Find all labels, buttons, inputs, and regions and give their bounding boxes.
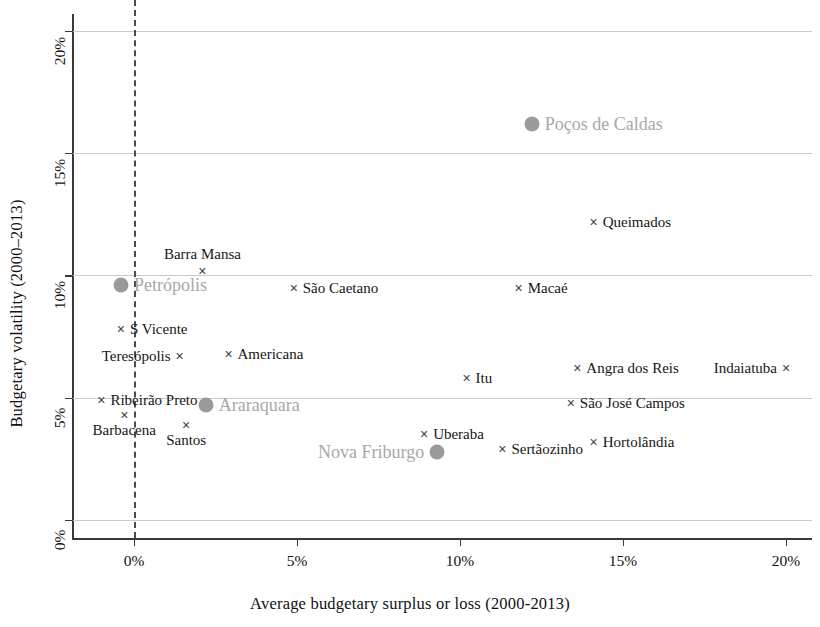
cross-marker-icon: × [498, 442, 506, 456]
y-tick-label: 15% [51, 153, 69, 193]
data-point-petropolis[interactable] [113, 278, 128, 293]
data-point-pocos-de-caldas[interactable] [524, 116, 539, 131]
cross-marker-icon: × [224, 347, 232, 361]
data-point-queimados[interactable]: × [590, 215, 598, 229]
data-point-sertaozinho[interactable]: × [498, 442, 506, 456]
gridline-y [72, 520, 812, 521]
data-point-itu[interactable]: × [462, 371, 470, 385]
data-point-label-araraquara: Araraquara [219, 396, 300, 414]
data-point-uberaba[interactable]: × [420, 427, 428, 441]
y-axis-title: Budgetary volatility (2000–2013) [0, 0, 34, 627]
x-tick-label: 15% [609, 552, 637, 570]
cross-marker-icon: × [515, 281, 523, 295]
data-point-label-teresopolis: Teresópolis [102, 349, 171, 364]
data-point-ribeirao-preto[interactable]: × [97, 393, 105, 407]
data-point-label-macae: Macaé [528, 280, 568, 295]
x-tick-mark [623, 538, 624, 546]
data-point-label-petropolis: Petrópolis [134, 276, 207, 294]
data-point-teresopolis[interactable]: × [176, 349, 184, 363]
cross-marker-icon: × [182, 418, 190, 432]
plot-area: 0%5%10%15%20% 0%5%10%15%20% Poços de Cal… [72, 14, 812, 540]
cross-marker-icon: × [290, 281, 298, 295]
data-point-santos[interactable]: × [182, 418, 190, 432]
data-point-label-sao-jose-campos: São José Campos [580, 395, 685, 410]
x-tick-mark [786, 538, 787, 546]
data-point-indaiatuba[interactable]: × [782, 361, 790, 375]
data-point-label-indaiatuba: Indaiatuba [714, 361, 777, 376]
cross-marker-icon: × [590, 215, 598, 229]
x-tick-label: 5% [287, 552, 308, 570]
gridline-y [72, 153, 812, 154]
data-point-sao-caetano[interactable]: × [290, 281, 298, 295]
cross-marker-icon: × [590, 435, 598, 449]
data-point-angra-dos-reis[interactable]: × [573, 361, 581, 375]
x-tick-label: 0% [124, 552, 145, 570]
gridline-y [72, 31, 812, 32]
cross-marker-icon: × [97, 393, 105, 407]
circle-marker-icon [524, 116, 539, 131]
data-point-label-ribeirao-preto: Ribeirão Preto [110, 393, 197, 408]
data-point-americana[interactable]: × [224, 347, 232, 361]
data-point-label-s-vicente: S Vicente [130, 322, 188, 337]
cross-marker-icon: × [420, 427, 428, 441]
data-point-label-hortolandia: Hortolândia [603, 434, 675, 449]
data-point-hortolandia[interactable]: × [590, 435, 598, 449]
data-point-label-americana: Americana [238, 346, 304, 361]
circle-marker-icon [198, 398, 213, 413]
data-point-label-itu: Itu [476, 371, 493, 386]
data-point-label-sao-caetano: São Caetano [303, 280, 378, 295]
data-point-sao-jose-campos[interactable]: × [567, 396, 575, 410]
y-axis-line [72, 14, 74, 540]
x-tick-label: 20% [772, 552, 800, 570]
x-tick-label: 10% [446, 552, 474, 570]
cross-marker-icon: × [573, 361, 581, 375]
data-point-label-uberaba: Uberaba [433, 427, 484, 442]
x-axis-title: Average budgetary surplus or loss (2000-… [0, 594, 820, 614]
x-tick-mark [460, 538, 461, 546]
cross-marker-icon: × [462, 371, 470, 385]
data-point-label-barbacena: Barbacena [93, 423, 156, 438]
cross-marker-icon: × [120, 408, 128, 422]
y-tick-label: 10% [51, 275, 69, 315]
data-point-label-sertaozinho: Sertãozinho [511, 442, 583, 457]
data-point-nova-friburgo[interactable] [430, 444, 445, 459]
x-axis-line [72, 538, 812, 540]
cross-marker-icon: × [782, 361, 790, 375]
y-tick-label: 20% [51, 31, 69, 71]
data-point-label-barra-mansa: Barra Mansa [164, 247, 241, 262]
zero-reference-line [134, 0, 136, 538]
cross-marker-icon: × [567, 396, 575, 410]
data-point-barbacena[interactable]: × [120, 408, 128, 422]
circle-marker-icon [430, 444, 445, 459]
data-point-label-santos: Santos [166, 433, 206, 448]
y-tick-label: 0% [51, 520, 69, 560]
x-tick-mark [134, 538, 135, 546]
data-point-s-vicente[interactable]: × [117, 322, 125, 336]
data-point-araraquara[interactable] [198, 398, 213, 413]
x-tick-mark [297, 538, 298, 546]
y-tick-label: 5% [51, 398, 69, 438]
data-point-label-angra-dos-reis: Angra dos Reis [586, 361, 679, 376]
circle-marker-icon [113, 278, 128, 293]
data-point-label-queimados: Queimados [603, 214, 671, 229]
cross-marker-icon: × [117, 322, 125, 336]
data-point-macae[interactable]: × [515, 281, 523, 295]
chart-figure: Budgetary volatility (2000–2013) Average… [0, 0, 820, 627]
data-point-label-pocos-de-caldas: Poços de Caldas [545, 115, 663, 133]
data-point-label-nova-friburgo: Nova Friburgo [318, 443, 424, 461]
cross-marker-icon: × [176, 349, 184, 363]
